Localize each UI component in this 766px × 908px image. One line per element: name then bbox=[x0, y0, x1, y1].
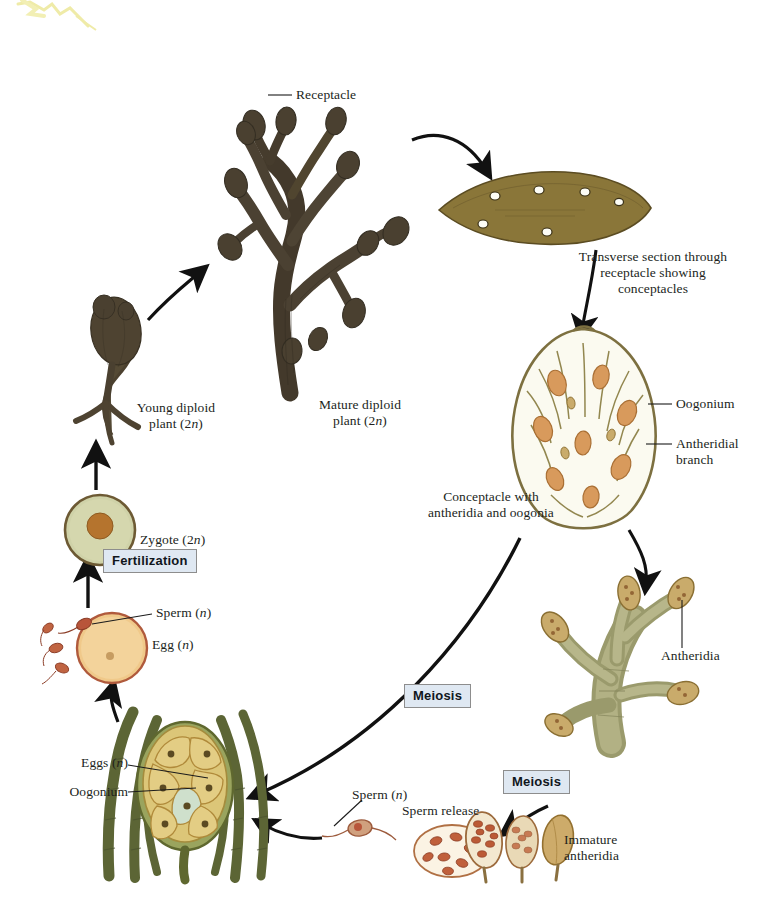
label-antheridia-right: Antheridia bbox=[661, 648, 720, 664]
label-egg: Egg (n) bbox=[152, 637, 194, 653]
label-mature-diploid-plant: Mature diploidplant (2n) bbox=[302, 397, 418, 429]
label-leader-lines bbox=[0, 0, 766, 908]
label-zygote: Zygote (2n) bbox=[140, 532, 205, 548]
label-transverse-section: Transverse section through receptacle sh… bbox=[563, 249, 743, 297]
label-sperm-upper: Sperm (n) bbox=[156, 605, 211, 621]
process-box-fertilization[interactable]: Fertilization bbox=[103, 549, 197, 573]
label-immature-antheridia: Immature antheridia bbox=[564, 832, 619, 864]
fucus-life-cycle-figure: Receptacle Transverse section through re… bbox=[0, 0, 766, 908]
label-conceptacle: Conceptacle with antheridia and oogonia bbox=[398, 489, 584, 521]
label-oogonium-right: Oogonium bbox=[676, 396, 735, 412]
label-oogonium-bottom: Oogonium bbox=[36, 784, 128, 800]
label-eggs-bottom: Eggs (n) bbox=[48, 755, 128, 771]
process-box-meiosis-middle[interactable]: Meiosis bbox=[404, 684, 471, 708]
process-box-meiosis-bottom[interactable]: Meiosis bbox=[503, 770, 570, 794]
label-receptacle: Receptacle bbox=[296, 87, 356, 103]
label-sperm-release: Sperm release bbox=[402, 803, 479, 819]
label-young-diploid-plant: Young diploidplant (2n) bbox=[120, 400, 232, 432]
label-sperm-bottom: Sperm (n) bbox=[352, 787, 407, 803]
label-antheridial-branch: Antheridial branch bbox=[676, 436, 739, 468]
